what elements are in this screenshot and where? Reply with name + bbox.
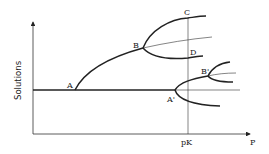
branch-b-to-c <box>143 16 206 48</box>
y-axis-label: Solutions <box>13 60 23 100</box>
label-b-prime: B' <box>201 67 209 76</box>
label-c: C <box>184 8 190 17</box>
branch-bprime-unstable <box>208 73 236 76</box>
label-a: A <box>66 81 73 90</box>
critical-value-label: pK <box>181 138 193 147</box>
bifurcation-diagram: A B C D A' B' pK P Solutions <box>0 0 269 154</box>
label-b: B <box>133 41 139 50</box>
x-axis-label: P <box>250 138 256 147</box>
branch-aprime-lower <box>175 90 220 106</box>
branch-b-unstable <box>143 37 212 48</box>
branch-bprime-lower <box>208 76 233 82</box>
label-a-prime: A' <box>166 95 175 104</box>
label-d: D <box>190 48 196 57</box>
branch-aprime-to-bprime <box>175 76 208 90</box>
branch-a-to-b <box>75 48 143 90</box>
